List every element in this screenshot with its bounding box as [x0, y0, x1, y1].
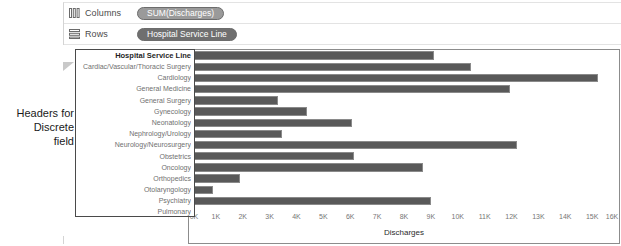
x-axis-tick-label: 13K — [532, 213, 544, 220]
annotation-line-1: Headers for — [0, 106, 74, 120]
x-axis-tick-label: 7K — [373, 213, 382, 220]
x-axis-tick-label: 11K — [479, 213, 491, 220]
columns-shelf[interactable]: Columns SUM(Discharges) — [64, 3, 621, 24]
bar-row — [189, 128, 619, 139]
bar-row — [189, 72, 619, 83]
row-header-list: Cardiac/Vascular/Thoracic SurgeryCardiol… — [76, 61, 191, 218]
bar-row — [189, 95, 619, 106]
bar-mark[interactable] — [189, 141, 517, 149]
row-header-label[interactable]: Orthopedics — [76, 173, 191, 184]
bar-chart-plot-area — [188, 49, 620, 217]
rows-shelf-label: Rows — [85, 29, 137, 39]
row-header-label[interactable]: Neurology/Neurosurgery — [76, 139, 191, 150]
x-axis-title: Discharges — [189, 228, 619, 237]
bar-mark[interactable] — [189, 130, 282, 138]
bar-mark[interactable] — [189, 152, 354, 160]
row-header-label[interactable]: General Surgery — [76, 95, 191, 106]
row-header-label[interactable]: Cardiac/Vascular/Thoracic Surgery — [76, 61, 191, 72]
row-header-label[interactable]: Pulmonary — [76, 206, 191, 217]
bar-mark[interactable] — [189, 96, 278, 104]
row-headers-title: Hospital Service Line — [76, 50, 191, 61]
x-axis-tick-label: 12K — [505, 213, 517, 220]
x-axis-tick-label: 10K — [452, 213, 464, 220]
x-axis-tick-label: 14K — [559, 213, 571, 220]
row-header-label[interactable]: Psychiatry — [76, 195, 191, 206]
bar-row — [189, 173, 619, 184]
bar-mark[interactable] — [189, 74, 598, 82]
row-header-label[interactable]: Obstetrics — [76, 151, 191, 162]
row-header-label[interactable]: Oncology — [76, 162, 191, 173]
annotation-headers-for-discrete-field: Headers for Discrete field — [0, 106, 74, 148]
x-axis-tick-label: 2K — [238, 213, 247, 220]
x-axis-ticks: 0K1K2K3K4K5K6K7K8K9K10K11K12K13K14K15K16… — [189, 212, 619, 225]
x-axis-tick-label: 15K — [586, 213, 598, 220]
bar-row — [189, 50, 619, 61]
x-axis-tick-label: 9K — [427, 213, 436, 220]
x-axis-tick-label: 6K — [346, 213, 355, 220]
panel-divider — [63, 236, 184, 244]
row-header-label[interactable]: Gynecology — [76, 106, 191, 117]
x-axis-tick-label: 1K — [212, 213, 221, 220]
row-header-label[interactable]: Nephrology/Urology — [76, 128, 191, 139]
row-header-label[interactable]: General Medicine — [76, 83, 191, 94]
row-header-label[interactable]: Neonatology — [76, 117, 191, 128]
columns-shelf-label: Columns — [85, 8, 137, 18]
bar-row — [189, 106, 619, 117]
pill-sum-discharges[interactable]: SUM(Discharges) — [137, 7, 224, 20]
bar-row — [189, 117, 619, 128]
bar-row — [189, 162, 619, 173]
x-axis-tick-label: 16K — [606, 213, 618, 220]
shelf-container: Columns SUM(Discharges) Rows Hospital Se… — [63, 2, 621, 45]
columns-icon — [68, 7, 81, 20]
annotation-line-3: field — [0, 134, 74, 148]
bar-mark[interactable] — [189, 51, 434, 59]
bar-mark[interactable] — [189, 174, 240, 182]
x-axis-tick-label: 4K — [292, 213, 301, 220]
drag-handle-icon[interactable] — [63, 58, 76, 70]
row-headers: Hospital Service Line Cardiac/Vascular/T… — [76, 50, 194, 218]
bar-row — [189, 184, 619, 195]
x-axis-tick-label: 5K — [319, 213, 328, 220]
x-axis: 0K1K2K3K4K5K6K7K8K9K10K11K12K13K14K15K16… — [188, 212, 620, 244]
bar-row — [189, 140, 619, 151]
bar-mark[interactable] — [189, 63, 471, 71]
bar-mark[interactable] — [189, 119, 352, 127]
pill-hospital-service-line[interactable]: Hospital Service Line — [137, 28, 237, 41]
bar-mark[interactable] — [189, 197, 431, 205]
bar-row — [189, 61, 619, 72]
annotation-line-2: Discrete — [0, 120, 74, 134]
bar-row — [189, 84, 619, 95]
bar-mark[interactable] — [189, 85, 510, 93]
row-header-label[interactable]: Cardiology — [76, 72, 191, 83]
bar-row — [189, 195, 619, 206]
rows-icon — [68, 28, 81, 41]
row-header-label[interactable]: Otolaryngology — [76, 184, 191, 195]
rows-shelf[interactable]: Rows Hospital Service Line — [64, 24, 621, 45]
x-axis-tick-label: 3K — [265, 213, 274, 220]
bar-row — [189, 151, 619, 162]
x-axis-tick-label: 8K — [400, 213, 409, 220]
bar-mark[interactable] — [189, 107, 307, 115]
bar-mark[interactable] — [189, 163, 423, 171]
